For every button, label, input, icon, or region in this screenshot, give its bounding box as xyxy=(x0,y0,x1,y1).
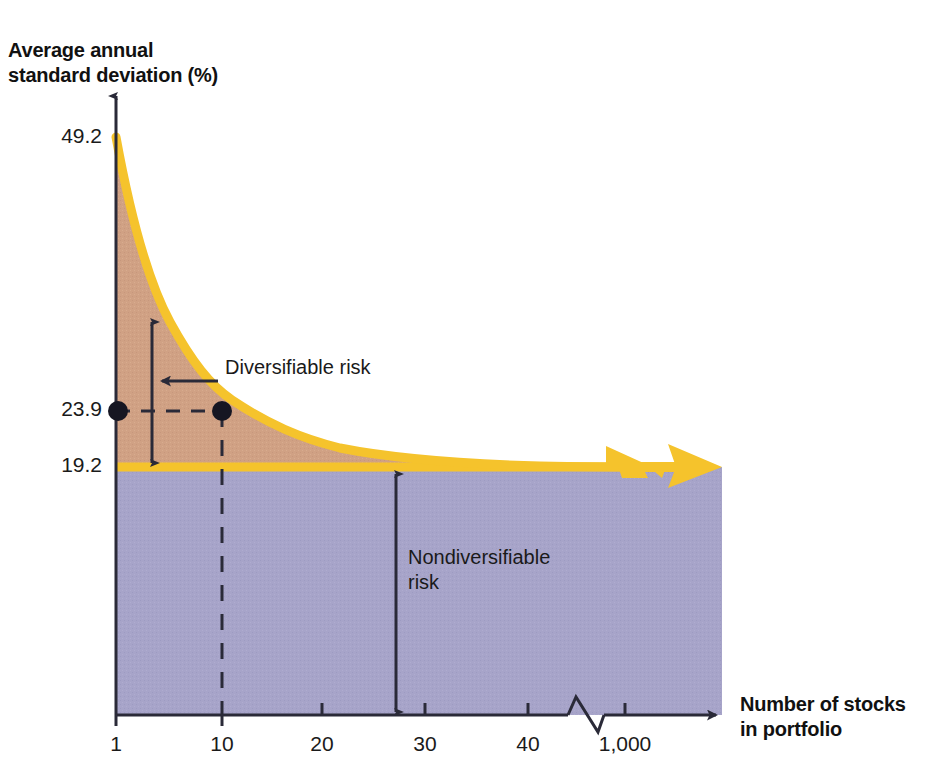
data-point-23-9-at-10-stocks xyxy=(212,401,232,421)
x-axis-title: Number of stocks in portfolio xyxy=(740,692,906,742)
y-tick-label-49-2: 49.2 xyxy=(10,124,102,148)
x-tick-label-1: 1 xyxy=(86,732,146,756)
y-tick-label-23-9: 23.9 xyxy=(10,397,102,421)
annotation-diversifiable-risk: Diversifiable risk xyxy=(225,355,371,380)
y-tick-label-19-2: 19.2 xyxy=(10,453,102,477)
annotation-nondiversifiable-risk: Nondiversifiable risk xyxy=(408,545,550,595)
x-tick-label-20: 20 xyxy=(292,732,352,756)
chart-canvas xyxy=(0,0,952,780)
x-tick-label-1000: 1,000 xyxy=(579,732,671,756)
risk-diversification-chart: Average annual standard deviation (%) Nu… xyxy=(0,0,952,780)
data-point-23-9-axis xyxy=(108,401,128,421)
x-tick-label-40: 40 xyxy=(498,732,558,756)
x-tick-label-30: 30 xyxy=(395,732,455,756)
y-axis-title: Average annual standard deviation (%) xyxy=(8,38,218,88)
diversifiable-risk-area xyxy=(116,137,722,467)
x-tick-label-10: 10 xyxy=(192,732,252,756)
